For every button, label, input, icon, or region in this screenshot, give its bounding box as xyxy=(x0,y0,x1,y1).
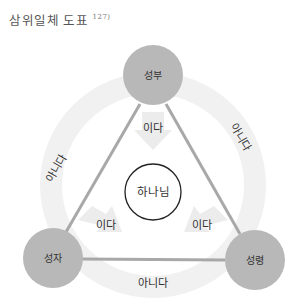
node-spirit: 성령 xyxy=(225,230,285,290)
trinity-diagram: 성부 성자 성령 하나님 아니다 아니다 아니다 이다 이다 이다 xyxy=(0,0,307,306)
edge-label-son-spirit: 아니다 xyxy=(138,277,168,290)
edge-son-spirit xyxy=(82,259,225,260)
arrow-label-spirit-god: 이다 xyxy=(192,219,212,232)
node-god: 하나님 xyxy=(125,164,181,220)
node-god-label: 하나님 xyxy=(137,185,170,199)
arrow-label-father-god: 이다 xyxy=(143,122,163,135)
node-son: 성자 xyxy=(23,228,83,288)
node-spirit-label: 성령 xyxy=(246,255,264,266)
arrow-label-son-god: 이다 xyxy=(96,219,116,232)
node-father: 성부 xyxy=(123,45,183,105)
node-son-label: 성자 xyxy=(44,253,62,264)
node-father-label: 성부 xyxy=(144,70,162,81)
